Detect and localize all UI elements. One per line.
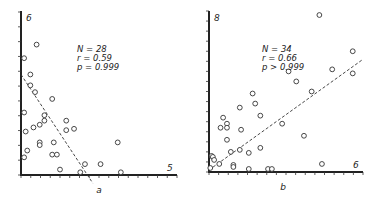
scatter-panel-a: 65aN = 28r = 0.59p = 0.999 <box>18 11 177 195</box>
x-axis-max-label: 6 <box>353 160 359 170</box>
data-point <box>269 167 274 172</box>
data-point <box>309 89 314 94</box>
data-point <box>317 13 322 18</box>
data-point <box>221 115 226 120</box>
data-point <box>31 125 36 130</box>
x-axis-max-label: 5 <box>167 163 173 173</box>
panel-label: a <box>96 185 102 195</box>
data-point <box>225 125 230 130</box>
data-point <box>98 162 103 167</box>
data-point <box>25 148 30 153</box>
y-axis-max-label: 8 <box>214 13 220 23</box>
data-point <box>350 49 355 54</box>
data-point <box>34 42 39 47</box>
data-point <box>78 170 83 175</box>
data-point <box>54 152 59 157</box>
data-point <box>22 110 27 115</box>
data-point <box>212 158 217 163</box>
data-point <box>246 150 251 155</box>
data-point <box>50 97 55 102</box>
data-point <box>218 125 223 130</box>
data-point <box>23 129 28 134</box>
data-point <box>217 162 222 167</box>
data-point <box>231 165 236 170</box>
data-point <box>253 101 258 106</box>
data-point <box>37 143 42 148</box>
data-point <box>208 166 213 171</box>
data-point <box>225 137 230 142</box>
data-point <box>118 170 123 175</box>
y-axis-max-label: 6 <box>26 13 32 23</box>
data-point <box>237 147 242 152</box>
data-point <box>239 127 244 132</box>
data-point <box>250 91 255 96</box>
data-point <box>22 56 27 61</box>
data-point <box>50 152 55 157</box>
stat-p: p = 0.999 <box>76 62 119 72</box>
data-point <box>64 118 69 123</box>
stat-p: p > 0.999 <box>261 62 304 72</box>
data-point <box>350 71 355 76</box>
data-point <box>22 155 27 160</box>
data-point <box>294 79 299 84</box>
data-point <box>58 167 63 172</box>
data-point <box>302 133 307 138</box>
data-point <box>320 162 325 167</box>
figure: 65aN = 28r = 0.59p = 0.999 86bN = 34r = … <box>0 0 378 202</box>
data-point <box>42 113 47 118</box>
data-point <box>42 118 47 123</box>
data-point <box>28 83 33 88</box>
data-point <box>115 140 120 145</box>
data-point <box>64 128 69 133</box>
data-point <box>37 122 42 127</box>
data-point <box>246 167 251 172</box>
data-point <box>258 113 263 118</box>
scatter-panel-b: 86bN = 34r = 0.66p > 0.999 <box>206 11 363 192</box>
data-point <box>280 121 285 126</box>
data-point <box>33 90 38 95</box>
data-point <box>330 67 335 72</box>
data-point <box>258 145 263 150</box>
data-point <box>83 162 88 167</box>
data-point <box>28 72 33 77</box>
panel-label: b <box>280 182 286 192</box>
data-point <box>228 149 233 154</box>
data-point <box>237 105 242 110</box>
data-point <box>72 126 77 131</box>
data-point <box>51 140 56 145</box>
